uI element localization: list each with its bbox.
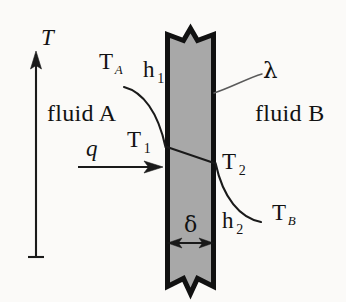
outer-surface-temperature-label: T2 [222, 150, 243, 173]
bulk-temperature-b-subscript: B [288, 213, 296, 228]
film-coefficient-a-base: h [143, 57, 155, 82]
bulk-temperature-b-label: TB [272, 201, 294, 224]
bulk-temperature-a-subscript: A [115, 62, 123, 77]
temperature-axis-label: T [41, 26, 54, 49]
fluid-a-label: fluid A [47, 101, 116, 125]
heat-transfer-diagram: T TA h1 λ fluid A fluid B T1 q T2 TB h2 … [0, 0, 346, 302]
temperature-axis [28, 51, 44, 257]
inner-surface-temperature-label: T1 [127, 128, 148, 151]
film-coefficient-b-label: h2 [222, 209, 241, 232]
bulk-temperature-a-base: T [99, 49, 113, 74]
fluid-b-label: fluid B [255, 101, 324, 125]
film-coefficient-a-label: h1 [143, 58, 162, 81]
wall-thickness-label: δ [184, 214, 197, 236]
bulk-temperature-b-base: T [272, 200, 286, 225]
film-coefficient-b-base: h [222, 208, 234, 233]
thermal-conductivity-label: λ [263, 59, 278, 82]
inner-surface-temperature-subscript: 1 [144, 141, 151, 156]
film-coefficient-a-subscript: 1 [157, 71, 164, 86]
conductivity-leader-line [214, 74, 262, 93]
heat-flux-arrow [78, 161, 163, 173]
bulk-temperature-a-label: TA [99, 50, 121, 73]
outer-surface-temperature-base: T [222, 149, 236, 174]
inner-surface-temperature-base: T [127, 127, 141, 152]
heat-flux-label: q [86, 137, 98, 160]
outer-surface-temperature-subscript: 2 [239, 163, 246, 178]
film-coefficient-b-subscript: 2 [236, 222, 243, 237]
